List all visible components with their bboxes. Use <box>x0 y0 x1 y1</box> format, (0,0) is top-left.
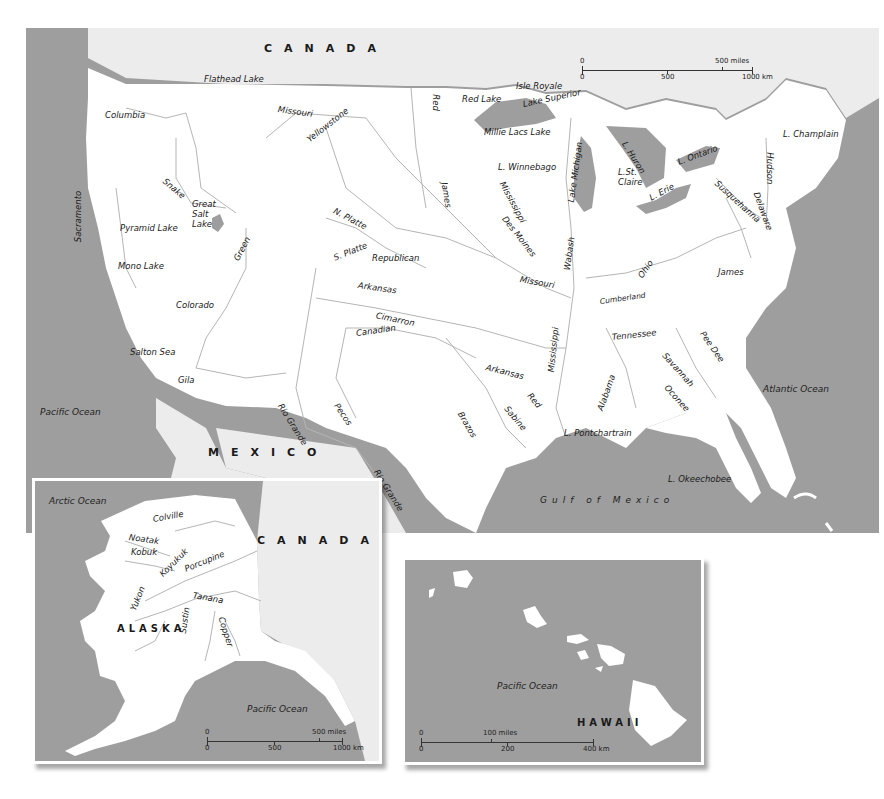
label-mexico: MEXICO <box>208 447 328 458</box>
label-river-columbia: Columbia <box>105 111 145 120</box>
scale-miles-label: 100 miles <box>483 730 517 737</box>
alaska-shapes <box>35 481 379 761</box>
label-millie-lacs-lake: Millie Lacs Lake <box>484 128 551 137</box>
label-river-colorado: Colorado <box>176 301 214 310</box>
label-river-republican: Republican <box>372 254 419 263</box>
scale-km-mid: 500 <box>661 74 674 81</box>
label-l-st-claire-2: Claire <box>618 178 643 187</box>
oahu-island <box>523 606 547 628</box>
label-mono-lake: Mono Lake <box>118 262 164 271</box>
label-pyramid-lake: Pyramid Lake <box>120 224 178 233</box>
main-map-shapes <box>26 28 879 533</box>
scale-km-mid: 500 <box>268 745 281 752</box>
label-river-sacramento: Sacramento <box>74 191 83 242</box>
scale-miles-zero: 0 <box>580 58 584 65</box>
kauai-island <box>453 570 473 588</box>
label-pacific-ocean-alaska: Pacific Ocean <box>247 705 308 714</box>
label-canada-inset: CANADA <box>257 535 381 546</box>
scale-km-zero: 0 <box>580 74 584 81</box>
label-red-lake: Red Lake <box>462 95 501 104</box>
hawaii-inset: Pacific Ocean HAWAII 0 100 miles 0 200 4… <box>402 557 704 765</box>
label-gulf-of-mexico: Gulf of Mexico <box>540 496 674 505</box>
label-l-okeechobee: L. Okeechobee <box>668 475 731 484</box>
scale-miles-zero: 0 <box>205 729 209 736</box>
niihau-island <box>429 588 435 598</box>
label-river-james-east: James <box>718 268 744 277</box>
bahamas <box>794 494 816 498</box>
scale-km-mid: 200 <box>501 746 514 753</box>
lanai-island <box>577 650 589 660</box>
label-pacific-ocean: Pacific Ocean <box>40 408 101 417</box>
canada-land-inset <box>257 481 379 761</box>
scale-tick <box>722 67 723 71</box>
scale-km-label: 1000 km <box>333 745 364 752</box>
label-arctic-ocean: Arctic Ocean <box>49 497 106 506</box>
alaska-inset: Arctic Ocean Pacific Ocean CANADA ALASKA… <box>32 478 382 764</box>
label-l-champlain: L. Champlain <box>783 130 839 139</box>
kahoolawe-island <box>595 666 603 672</box>
label-alaska: ALASKA <box>117 624 186 634</box>
label-great-salt-lake-2: Salt <box>192 210 208 219</box>
label-flathead-lake: Flathead Lake <box>204 75 264 84</box>
big-island <box>629 680 687 746</box>
label-canada: CANADA <box>264 43 388 54</box>
label-hawaii: HAWAII <box>577 718 642 728</box>
scale-km-label: 1000 km <box>742 74 773 81</box>
alaska-scale-bar: 0 500 miles 0 500 1000 km <box>207 735 377 759</box>
label-river-gila: Gila <box>178 376 195 385</box>
hawaii-shapes <box>405 560 701 762</box>
label-river-hudson: Hudson <box>766 152 775 184</box>
scale-km-zero: 0 <box>205 745 209 752</box>
label-great-salt-lake-1: Great <box>192 200 216 209</box>
main-map: CANADA MEXICO Pacific Ocean Atlantic Oce… <box>26 28 879 533</box>
hawaii-scale-bar: 0 100 miles 0 200 400 km <box>421 736 611 760</box>
maui-island <box>597 644 625 666</box>
label-pacific-ocean-hawaii: Pacific Ocean <box>497 682 558 691</box>
label-isle-royale: Isle Royale <box>516 82 562 91</box>
molokai-island <box>567 634 589 644</box>
scale-miles-label: 500 miles <box>715 58 749 65</box>
label-atlantic-ocean: Atlantic Ocean <box>763 385 829 394</box>
scale-tick <box>319 738 320 742</box>
label-river-kobuk: Kobuk <box>131 548 157 557</box>
label-l-winnebago: L. Winnebago <box>498 163 556 172</box>
label-l-st-claire-1: L.St. <box>618 168 637 177</box>
scale-bar: 0 500 miles 0 500 1000 km <box>582 62 782 86</box>
scale-miles-zero: 0 <box>419 730 423 737</box>
label-salton-sea: Salton Sea <box>130 348 175 357</box>
scale-km-zero: 0 <box>419 746 423 753</box>
scale-km-label: 400 km <box>583 746 609 753</box>
label-river-red-north: Red <box>432 94 441 111</box>
label-l-pontchartrain: L. Pontchartrain <box>564 429 632 438</box>
scale-tick <box>491 739 492 743</box>
scale-miles-label: 500 miles <box>312 729 346 736</box>
bahamas-islet <box>826 523 832 531</box>
label-great-salt-lake-3: Lake <box>192 220 212 229</box>
